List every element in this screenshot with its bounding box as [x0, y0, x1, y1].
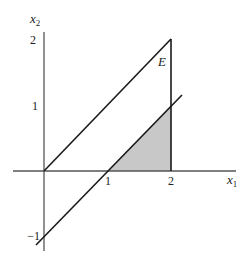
x-tick-label-2: 2: [168, 174, 174, 188]
region-diagram: x2 2 1 −1 1 2 x1 E: [0, 0, 248, 261]
y-tick-label-1: 1: [32, 99, 38, 113]
region-label-e: E: [157, 54, 166, 69]
x-tick-label-1: 1: [105, 174, 111, 188]
y-tick-label-2: 2: [30, 33, 36, 47]
y-axis-label: x2: [29, 11, 40, 28]
y-tick-label-neg1: −1: [27, 229, 40, 243]
x-axis-label: x1: [226, 172, 237, 189]
